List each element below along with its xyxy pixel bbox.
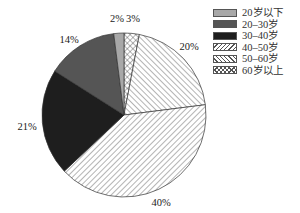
legend-item-60-plus: 60岁以上 bbox=[213, 65, 283, 77]
legend-item-30-40: 30–40岁 bbox=[213, 30, 283, 42]
pie-slices bbox=[42, 33, 206, 197]
legend-item-50-60: 50–60岁 bbox=[213, 53, 283, 65]
label-30-40: 21% bbox=[17, 121, 36, 132]
legend-item-20-below: 20岁以下 bbox=[213, 7, 283, 19]
label-40-50: 40% bbox=[151, 197, 170, 208]
label-20-30: 14% bbox=[59, 34, 78, 45]
legend: 20岁以下 20–30岁 30–40岁 40–50岁 50–60岁 60岁以上 bbox=[213, 7, 283, 76]
legend-item-20-30: 20–30岁 bbox=[213, 19, 283, 31]
label-60-plus: 3% bbox=[126, 13, 140, 24]
label-20-below: 2% bbox=[110, 13, 124, 24]
label-50-60: 20% bbox=[179, 41, 198, 52]
swatch-black bbox=[213, 32, 237, 40]
swatch-back-hatch bbox=[213, 55, 237, 63]
legend-item-40-50: 40–50岁 bbox=[213, 42, 283, 54]
swatch-dark-grey bbox=[213, 20, 237, 28]
swatch-forward-hatch bbox=[213, 43, 237, 51]
swatch-crosshatch bbox=[213, 66, 237, 74]
swatch-light-grey bbox=[213, 9, 237, 17]
